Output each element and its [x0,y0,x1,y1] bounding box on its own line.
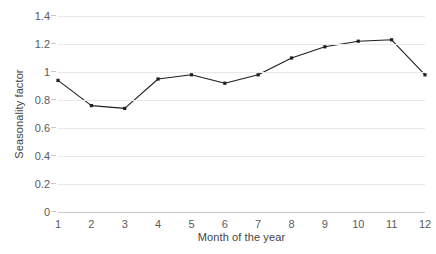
seasonality-line-chart: Seasonality factor Month of the year 00.… [0,0,436,254]
x-tick-label: 5 [176,218,206,230]
gridline-y [58,44,425,45]
y-tick-mark [51,155,56,156]
y-tick-mark [51,99,56,100]
data-point-marker [323,45,326,48]
y-tick-mark [51,183,56,184]
data-point-marker [190,73,193,76]
y-tick-mark [51,127,56,128]
x-tick-label: 9 [310,218,340,230]
y-tick-label: 0.8 [4,94,50,106]
y-tick-label: 0.4 [4,150,50,162]
x-tick-label: 1 [43,218,73,230]
x-tick-label: 2 [76,218,106,230]
data-point-marker [156,77,159,80]
gridline-y [58,156,425,157]
y-tick-label: 1 [4,66,50,78]
data-point-marker [257,73,260,76]
x-tick-label: 8 [277,218,307,230]
gridline-y [58,128,425,129]
data-point-marker [290,56,293,59]
y-tick-mark [51,71,56,72]
series-line-seasonality-factor [58,16,425,212]
data-point-marker [390,38,393,41]
y-tick-mark [51,43,56,44]
x-tick-label: 10 [343,218,373,230]
data-point-marker [357,40,360,43]
y-tick-label: 0.6 [4,122,50,134]
series-polyline [58,40,425,109]
x-tick-label: 6 [210,218,240,230]
gridline-y [58,72,425,73]
y-tick-label: 1.4 [4,10,50,22]
y-tick-mark [51,211,56,212]
x-axis-line [58,212,425,213]
y-tick-label: 0 [4,206,50,218]
gridline-y [58,100,425,101]
x-tick-label: 12 [410,218,436,230]
y-tick-label: 0.2 [4,178,50,190]
x-axis-title: Month of the year [58,231,425,243]
x-tick-label: 4 [143,218,173,230]
data-point-marker [56,79,59,82]
y-tick-mark [51,15,56,16]
plot-area: 00.20.40.60.811.21.4123456789101112 [58,16,425,212]
y-tick-label: 1.2 [4,38,50,50]
data-point-marker [90,104,93,107]
data-point-marker [423,73,426,76]
data-point-marker [223,82,226,85]
x-tick-label: 11 [377,218,407,230]
x-tick-label: 7 [243,218,273,230]
data-point-marker [123,107,126,110]
x-tick-label: 3 [110,218,140,230]
gridline-y [58,184,425,185]
gridline-y [58,16,425,17]
